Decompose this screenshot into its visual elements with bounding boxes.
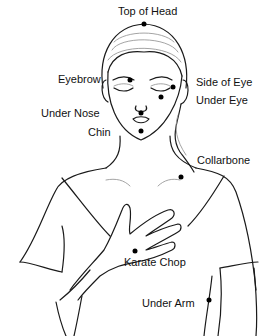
label-side-of-eye: Side of Eye [196, 76, 252, 88]
label-under-nose: Under Nose [41, 107, 100, 119]
neck-right [170, 136, 196, 168]
label-under-eye: Under Eye [196, 94, 248, 106]
hand [70, 204, 181, 300]
label-under-arm: Under Arm [142, 297, 195, 309]
left-shoulder [20, 168, 106, 262]
dot-under-eye [159, 95, 164, 100]
dot-karate-chop [133, 249, 138, 254]
face-outline [108, 72, 182, 140]
dot-under-arm [207, 298, 212, 303]
right-shoulder [196, 168, 256, 290]
figure-illustration [0, 0, 267, 336]
dot-chin [139, 129, 144, 134]
dot-side-of-eye [171, 85, 176, 90]
dot-under-nose [139, 111, 144, 116]
dot-top-of-head [142, 22, 147, 27]
label-top-of-head: Top of Head [118, 5, 177, 17]
dot-collarbone [179, 175, 184, 180]
dot-eyebrow [128, 78, 133, 83]
neck-left [106, 136, 120, 168]
label-karate-chop: Karate Chop [124, 256, 186, 268]
hairline [108, 52, 182, 76]
label-chin: Chin [88, 126, 111, 138]
label-eyebrow: Eyebrow [58, 73, 101, 85]
label-collarbone: Collarbone [197, 154, 250, 166]
head-outline [102, 24, 187, 88]
tapping-points-diagram: Top of Head Eyebrow Side of Eye Under Ey… [0, 0, 267, 336]
